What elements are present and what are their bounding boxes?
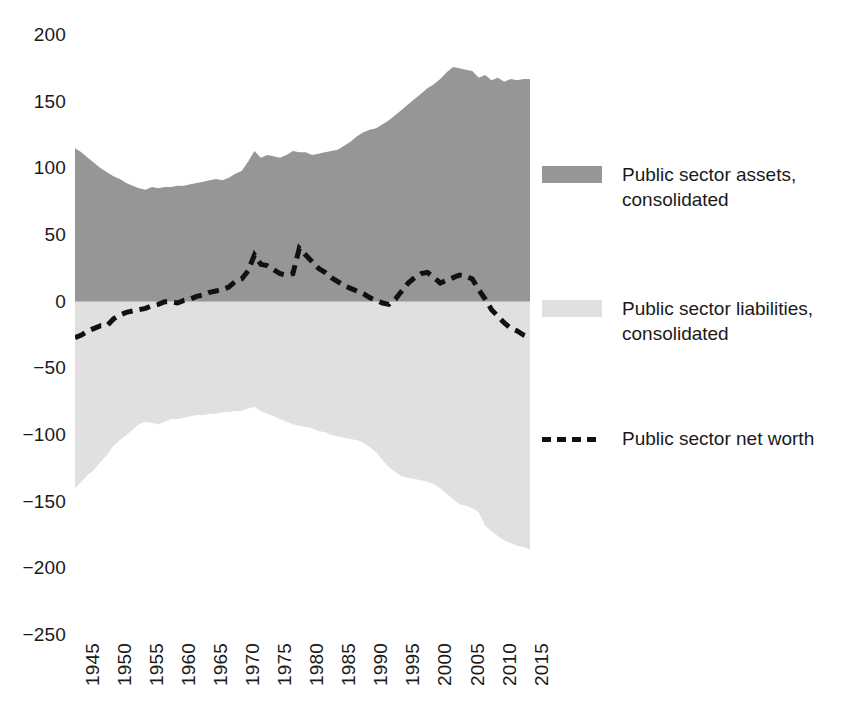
plot-svg bbox=[75, 35, 530, 635]
y-tick-label: −200 bbox=[22, 557, 66, 579]
legend-label-liabilities: Public sector liabilities, consolidated bbox=[622, 296, 813, 346]
chart-figure: 200150100500−50−100−150−200−250 19451950… bbox=[0, 0, 853, 710]
legend-item-assets: Public sector assets, consolidated bbox=[542, 162, 796, 212]
x-tick-label: 1945 bbox=[82, 643, 104, 686]
legend-label-assets-line2: consolidated bbox=[622, 187, 796, 212]
x-tick-label: 1960 bbox=[178, 643, 200, 686]
legend-item-net-worth: Public sector net worth bbox=[542, 426, 814, 451]
y-tick-label: 100 bbox=[34, 157, 66, 179]
y-tick-label: 200 bbox=[34, 24, 66, 46]
legend-dash-net-worth bbox=[542, 430, 602, 447]
x-tick-label: 1975 bbox=[274, 643, 296, 686]
legend-swatch-liabilities bbox=[542, 300, 602, 317]
x-tick-label: 1955 bbox=[146, 643, 168, 686]
y-tick-label: −150 bbox=[22, 491, 66, 513]
x-tick-label: 1995 bbox=[402, 643, 424, 686]
x-tick-label: 1965 bbox=[210, 643, 232, 686]
y-tick-label: 50 bbox=[44, 224, 66, 246]
x-tick-label: 1950 bbox=[114, 643, 136, 686]
legend-label-net-worth-line1: Public sector net worth bbox=[622, 426, 814, 451]
x-tick-label: 1990 bbox=[370, 643, 392, 686]
x-tick-label: 1970 bbox=[242, 643, 264, 686]
y-tick-label: −50 bbox=[33, 357, 66, 379]
chart-legend: Public sector assets, consolidated Publi… bbox=[542, 0, 853, 710]
x-tick-label: 1980 bbox=[306, 643, 328, 686]
y-tick-label: 150 bbox=[34, 91, 66, 113]
legend-item-liabilities: Public sector liabilities, consolidated bbox=[542, 296, 813, 346]
area-public-sector-assets bbox=[75, 67, 530, 302]
y-tick-label: 0 bbox=[55, 291, 66, 313]
y-tick-label: −100 bbox=[22, 424, 66, 446]
legend-swatch-assets bbox=[542, 166, 602, 183]
x-tick-label: 2010 bbox=[499, 643, 521, 686]
plot-area bbox=[75, 35, 530, 635]
legend-label-liabilities-line1: Public sector liabilities, bbox=[622, 296, 813, 321]
y-tick-label: −250 bbox=[22, 624, 66, 646]
legend-label-net-worth: Public sector net worth bbox=[622, 426, 814, 451]
x-tick-label: 2005 bbox=[467, 643, 489, 686]
area-public-sector-liabilities bbox=[75, 302, 530, 550]
legend-label-assets-line1: Public sector assets, bbox=[622, 162, 796, 187]
x-tick-label: 2000 bbox=[434, 643, 456, 686]
x-tick-label: 1985 bbox=[338, 643, 360, 686]
legend-label-liabilities-line2: consolidated bbox=[622, 321, 813, 346]
legend-label-assets: Public sector assets, consolidated bbox=[622, 162, 796, 212]
